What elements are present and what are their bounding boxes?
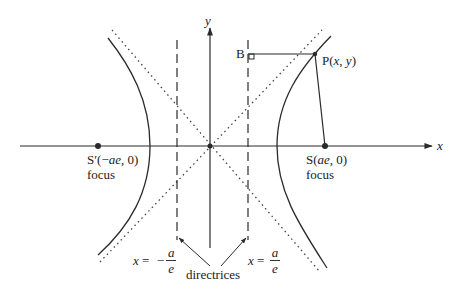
directrices-caption: directrices (186, 268, 240, 281)
focus-left-var: ae (109, 152, 121, 167)
focus-left-point (95, 143, 101, 149)
x-axis-label: x (437, 139, 443, 152)
focus-left-coord-label: S′(−ae, 0) (87, 153, 138, 166)
directrix-left-eq: = (139, 254, 153, 267)
directrix-right-den: e (272, 261, 278, 275)
focus-right-var: ae (318, 152, 330, 167)
directrix-left-num: a (166, 246, 177, 261)
directrix-left-equation: x = − a e (133, 246, 176, 275)
right-angle-marker (249, 54, 254, 59)
focus-right-caption: focus (306, 168, 334, 181)
point-p (313, 52, 317, 56)
focus-right-prefix: S( (306, 152, 318, 167)
point-p-suffix: ) (352, 53, 356, 68)
directrix-right-eq: = (254, 254, 268, 267)
point-p-label: P(x, y) (322, 54, 356, 67)
directrix-left-fraction: a e (166, 246, 177, 275)
focus-right-coord-label: S(ae, 0) (306, 153, 347, 166)
directrix-right-num: a (270, 246, 281, 261)
point-b-label: B (236, 47, 245, 60)
focus-right-suffix: , 0) (330, 152, 347, 167)
directrix-left-sign: − (157, 254, 164, 267)
hyperbola-diagram (0, 0, 461, 301)
directrix-right-fraction: a e (270, 246, 281, 275)
focus-right-point (322, 143, 328, 149)
focus-left-caption: focus (87, 168, 115, 181)
focus-left-prefix: S′(− (87, 152, 109, 167)
y-axis-label: y (205, 14, 211, 27)
focus-left-suffix: , 0) (121, 152, 138, 167)
directrices-arrow-left (179, 238, 210, 266)
directrix-right-equation: x = a e (248, 246, 280, 275)
origin-point (208, 144, 213, 149)
point-p-prefix: P( (322, 53, 334, 68)
asymptote-negative (112, 30, 320, 272)
directrix-left-den: e (168, 261, 174, 275)
directrices-arrow-right (221, 238, 246, 266)
